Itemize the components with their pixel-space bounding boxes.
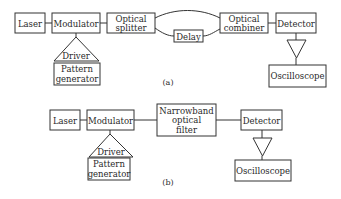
pattern-generator-label-line2-a: generator: [56, 74, 100, 84]
caption-a: (a): [162, 78, 173, 87]
optical-splitter-box: Optical splitter: [107, 13, 155, 33]
diagram-b: Laser Modulator Narrowband optical filte…: [50, 104, 291, 187]
diagram-canvas: Laser Modulator Optical splitter Delay O…: [0, 0, 341, 199]
diagram-a: Laser Modulator Optical splitter Delay O…: [15, 11, 326, 88]
wire-upper-arm: [155, 11, 220, 19]
detector-label-a: Detector: [277, 19, 316, 29]
filter-label-line2: optical: [172, 115, 202, 125]
caption-b: (b): [162, 178, 173, 187]
oscilloscope-label-b: Oscilloscope: [236, 166, 290, 176]
oscilloscope-box-a: Oscilloscope: [269, 65, 326, 87]
modulator-box-a: Modulator: [52, 13, 100, 33]
amplifier-triangle-icon-a: [287, 40, 306, 58]
driver-triangle-a: Driver: [54, 37, 99, 61]
pattern-generator-label-line1-a: Pattern: [61, 64, 93, 74]
optical-combiner-box: Optical combiner: [220, 13, 268, 33]
laser-label-b: Laser: [53, 116, 78, 126]
driver-triangle-b: Driver: [89, 134, 133, 157]
wire-splitter-delay: [155, 28, 174, 36]
pattern-generator-box-a: Pattern generator: [54, 63, 100, 85]
pattern-generator-label-line2-b: generator: [88, 169, 132, 179]
pattern-generator-label-line1-b: Pattern: [93, 159, 125, 169]
splitter-label-line2: splitter: [115, 23, 147, 33]
laser-label-a: Laser: [18, 19, 43, 29]
laser-box-b: Laser: [50, 110, 80, 130]
pattern-generator-box-b: Pattern generator: [88, 158, 132, 180]
wire-delay-combiner: [203, 29, 220, 36]
driver-label-b: Driver: [97, 147, 125, 157]
amplifier-triangle-icon-b: [253, 138, 272, 156]
modulator-label-a: Modulator: [53, 19, 99, 29]
laser-box-a: Laser: [15, 13, 45, 33]
detector-box-a: Detector: [276, 13, 316, 33]
combiner-label-line2: combiner: [224, 23, 266, 33]
driver-label-a: Driver: [62, 51, 90, 61]
delay-label: Delay: [176, 32, 201, 42]
detector-label-b: Detector: [243, 116, 282, 126]
oscilloscope-box-b: Oscilloscope: [235, 160, 291, 181]
delay-box: Delay: [174, 30, 203, 42]
narrowband-filter-box: Narrowband optical filter: [157, 104, 216, 136]
modulator-box-b: Modulator: [87, 110, 134, 130]
filter-label-line1: Narrowband: [159, 106, 214, 116]
detector-box-b: Detector: [241, 110, 282, 130]
modulator-label-b: Modulator: [88, 116, 134, 126]
filter-label-line3: filter: [176, 125, 198, 135]
oscilloscope-label-a: Oscilloscope: [270, 71, 324, 81]
